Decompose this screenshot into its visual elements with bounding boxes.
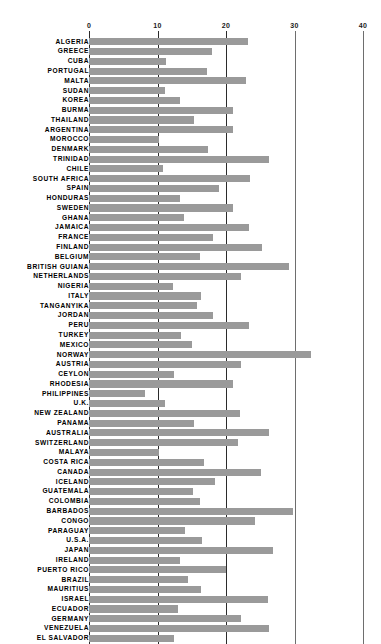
category-label: BURMA xyxy=(0,106,89,114)
bar xyxy=(89,459,204,466)
chart-row: RHODESIA xyxy=(0,380,381,390)
chart-row: TANGANYIKA xyxy=(0,302,381,312)
category-label: SOUTH AFRICA xyxy=(0,175,89,183)
chart-row: GUATEMALA xyxy=(0,487,381,497)
chart-row: PORTUGAL xyxy=(0,67,381,77)
category-label: U.S.A. xyxy=(0,536,89,544)
bar xyxy=(89,351,311,358)
category-label: MALAYA xyxy=(0,448,89,456)
category-label: GREECE xyxy=(0,47,89,55)
category-label: FINLAND xyxy=(0,243,89,251)
category-label: ICELAND xyxy=(0,478,89,486)
bar xyxy=(89,361,241,368)
chart-row: PHILIPPINES xyxy=(0,390,381,400)
bar xyxy=(89,273,241,280)
category-label: HONDURAS xyxy=(0,194,89,202)
chart-row: CONGO xyxy=(0,517,381,527)
category-label: PORTUGAL xyxy=(0,67,89,75)
category-label: MAURITIUS xyxy=(0,585,89,593)
category-label: BRAZIL xyxy=(0,576,89,584)
bar xyxy=(89,263,289,270)
chart-row: FINLAND xyxy=(0,243,381,253)
chart-row: TURKEY xyxy=(0,331,381,341)
bar xyxy=(89,156,269,163)
chart-row: NORWAY xyxy=(0,351,381,361)
chart-row: PANAMA xyxy=(0,419,381,429)
category-label: COLOMBIA xyxy=(0,497,89,505)
bar xyxy=(89,488,193,495)
chart-row: ICELAND xyxy=(0,478,381,488)
bar xyxy=(89,224,249,231)
chart-row: PUERTO RICO xyxy=(0,566,381,576)
bar xyxy=(89,341,192,348)
bar xyxy=(89,517,255,524)
category-label: JAMAICA xyxy=(0,223,89,231)
chart-row: EL SALVADOR xyxy=(0,634,381,644)
chart-row: ECUADOR xyxy=(0,605,381,615)
bar xyxy=(89,508,293,515)
bar xyxy=(89,478,215,485)
chart-row: BURMA xyxy=(0,106,381,116)
chart-row: DENMARK xyxy=(0,145,381,155)
bar xyxy=(89,527,185,534)
chart-row: CHILE xyxy=(0,165,381,175)
category-label: BRITISH GUIANA xyxy=(0,263,89,271)
category-label: PARAGUAY xyxy=(0,527,89,535)
chart-row: PERU xyxy=(0,321,381,331)
category-label: PERU xyxy=(0,321,89,329)
bar xyxy=(89,283,173,290)
chart-row: MOROCCO xyxy=(0,135,381,145)
category-label: ISRAEL xyxy=(0,595,89,603)
chart-row: IRELAND xyxy=(0,556,381,566)
chart-row: CUBA xyxy=(0,57,381,67)
category-label: NORWAY xyxy=(0,351,89,359)
category-label: ALGERIA xyxy=(0,38,89,46)
bar xyxy=(89,185,219,192)
chart-row: JORDAN xyxy=(0,311,381,321)
category-label: TANGANYIKA xyxy=(0,302,89,310)
category-label: GUATEMALA xyxy=(0,487,89,495)
bar xyxy=(89,439,238,446)
chart-row: THAILAND xyxy=(0,116,381,126)
chart-row: MALAYA xyxy=(0,448,381,458)
bar xyxy=(89,48,212,55)
bar xyxy=(89,586,201,593)
chart-row: CANADA xyxy=(0,468,381,478)
chart-row: SUDAN xyxy=(0,87,381,97)
chart-row: BRAZIL xyxy=(0,576,381,586)
bar xyxy=(89,371,174,378)
bar xyxy=(89,380,233,387)
category-label: KOREA xyxy=(0,96,89,104)
chart-row: ARGENTINA xyxy=(0,126,381,136)
category-label: JAPAN xyxy=(0,546,89,554)
bar xyxy=(89,390,145,397)
category-label: THAILAND xyxy=(0,116,89,124)
chart-row: ITALY xyxy=(0,292,381,302)
bar xyxy=(89,38,248,45)
bar xyxy=(89,165,163,172)
bar xyxy=(89,576,188,583)
chart-row: HONDURAS xyxy=(0,194,381,204)
bar xyxy=(89,87,165,94)
chart-row: SWEDEN xyxy=(0,204,381,214)
category-label: SUDAN xyxy=(0,87,89,95)
bar xyxy=(89,557,180,564)
chart-row: GHANA xyxy=(0,214,381,224)
category-label: GHANA xyxy=(0,214,89,222)
bar xyxy=(89,615,241,622)
chart-row: U.S.A. xyxy=(0,536,381,546)
chart-row: SOUTH AFRICA xyxy=(0,175,381,185)
chart-row: BELGIUM xyxy=(0,253,381,263)
bar xyxy=(89,625,269,632)
bar xyxy=(89,449,159,456)
chart-row: AUSTRALIA xyxy=(0,429,381,439)
category-label: MALTA xyxy=(0,77,89,85)
bar xyxy=(89,498,200,505)
category-label: BARBADOS xyxy=(0,507,89,515)
bar xyxy=(89,400,165,407)
chart-row: VENEZUELA xyxy=(0,624,381,634)
bar xyxy=(89,547,273,554)
chart-row: SWITZERLAND xyxy=(0,439,381,449)
bar xyxy=(89,566,226,573)
